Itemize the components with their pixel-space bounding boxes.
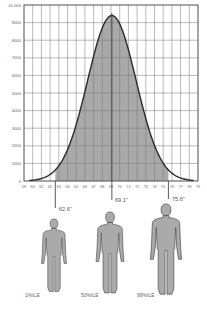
- percentile-label-1st: 1%ILE: [25, 292, 40, 298]
- svg-text:7000: 7000: [12, 55, 22, 60]
- svg-text:4000: 4000: [12, 108, 22, 113]
- svg-text:77: 77: [178, 185, 182, 189]
- svg-text:10,000: 10,000: [8, 3, 21, 8]
- svg-text:72: 72: [135, 185, 139, 189]
- svg-text:62: 62: [48, 185, 52, 189]
- svg-text:68: 68: [100, 185, 104, 189]
- svg-text:67: 67: [91, 185, 95, 189]
- svg-text:6000: 6000: [12, 73, 22, 78]
- svg-text:70: 70: [118, 185, 122, 189]
- svg-text:76: 76: [170, 185, 174, 189]
- svg-text:78: 78: [187, 185, 191, 189]
- svg-text:8000: 8000: [12, 38, 22, 43]
- chart-grid: [24, 5, 198, 181]
- figure-1st-percentile-icon: [42, 219, 67, 292]
- svg-text:61: 61: [39, 185, 43, 189]
- svg-text:74: 74: [152, 185, 156, 189]
- svg-text:63: 63: [57, 185, 61, 189]
- stature-distribution-chart: 010002000300040005000600070008000900010,…: [0, 0, 207, 314]
- height-label-1st: 62.6": [59, 206, 72, 212]
- figure-99th-percentile-icon: [150, 204, 181, 294]
- height-label-50th: 69.1": [115, 197, 128, 203]
- svg-text:59: 59: [22, 185, 26, 189]
- svg-text:65: 65: [74, 185, 78, 189]
- svg-text:9000: 9000: [12, 20, 22, 25]
- x-axis-labels: 5960616263646566676869707172737475767778…: [22, 185, 200, 189]
- svg-text:64: 64: [65, 185, 69, 189]
- svg-text:66: 66: [83, 185, 87, 189]
- svg-text:1000: 1000: [12, 161, 22, 166]
- svg-text:3000: 3000: [12, 126, 22, 131]
- svg-text:73: 73: [144, 185, 148, 189]
- svg-text:71: 71: [126, 185, 130, 189]
- figure-50th-percentile-icon: [96, 212, 124, 293]
- svg-text:5000: 5000: [12, 91, 22, 96]
- svg-text:0: 0: [19, 179, 22, 184]
- svg-text:79: 79: [196, 185, 200, 189]
- height-label-99th: 75.6": [172, 196, 185, 202]
- svg-text:69: 69: [109, 185, 113, 189]
- y-axis-labels: 010002000300040005000600070008000900010,…: [8, 3, 21, 184]
- svg-text:75: 75: [161, 185, 165, 189]
- svg-text:60: 60: [31, 185, 35, 189]
- svg-text:2000: 2000: [12, 143, 22, 148]
- percentile-label-50th: 50%ILE: [81, 292, 99, 298]
- percentile-label-99th: 99%ILE: [137, 292, 155, 298]
